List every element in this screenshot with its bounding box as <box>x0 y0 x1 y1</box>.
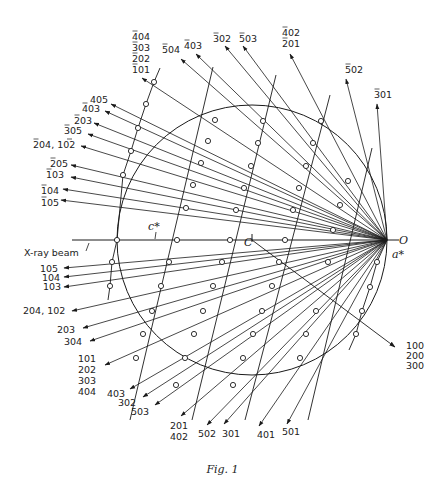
lattice-point <box>120 172 125 177</box>
lattice-row-line <box>308 148 372 420</box>
lattice-point <box>182 355 187 360</box>
lattice-point <box>303 331 308 336</box>
lattice-point <box>133 355 138 360</box>
reflected-rays <box>61 46 395 426</box>
lattice-point <box>259 308 264 313</box>
lattice-point <box>143 101 148 106</box>
reflection-label: 301 <box>374 89 392 100</box>
reciprocal-lattice-ewald-sphere-diagram: 4043032021015044033025034022015023014054… <box>0 0 445 486</box>
reflection-label: 201 <box>282 38 300 49</box>
lattice-point <box>191 331 196 336</box>
lattice-point <box>198 160 203 165</box>
lattice-point <box>174 237 179 242</box>
lattice-point <box>205 138 210 143</box>
lattice-point <box>241 185 246 190</box>
c-star-label: c* <box>148 220 160 233</box>
reflection-label: 300 <box>406 360 424 371</box>
reflection-label: 402 <box>170 431 188 442</box>
lattice-point <box>250 331 255 336</box>
c-star-leader <box>155 232 156 239</box>
reflection-label: 504 <box>162 44 180 55</box>
reflection-label: 303 <box>78 375 96 386</box>
lattice-row-line <box>130 67 213 420</box>
lattice-point <box>290 207 295 212</box>
lattice-point <box>313 308 318 313</box>
reflection-label: 103 <box>46 169 64 180</box>
ray-bottom <box>207 240 387 425</box>
lattice-point <box>255 140 260 145</box>
lattice-point <box>210 283 215 288</box>
reflection-label: 204, 102 <box>23 305 65 316</box>
reflection-label: 201 <box>170 420 188 431</box>
reflection-label: 305 <box>64 125 82 136</box>
lattice-point <box>359 308 364 313</box>
reflection-label: 101 <box>78 353 96 364</box>
lattice-point <box>173 382 178 387</box>
lattice-point <box>140 331 145 336</box>
lattice-point <box>135 125 140 130</box>
lattice-point <box>219 259 224 264</box>
ray-top <box>181 59 387 240</box>
lattice-point <box>296 185 301 190</box>
lattice-point <box>233 207 238 212</box>
ray-100-200-300 <box>252 240 395 347</box>
origin-label: O <box>399 234 408 247</box>
lattice-point <box>318 118 323 123</box>
reflection-label: 105 <box>41 197 59 208</box>
lattice-point <box>260 118 265 123</box>
reflection-label: 502 <box>198 428 216 439</box>
ray-left-upper <box>81 146 387 240</box>
reflection-label: 502 <box>345 64 363 75</box>
reflection-label: 302 <box>213 33 231 44</box>
lattice-point <box>330 227 335 232</box>
reflection-label: 203 <box>57 324 75 335</box>
lattice-point <box>325 259 330 264</box>
lattice-point <box>190 182 195 187</box>
reflection-label: 303 <box>132 42 150 53</box>
reflection-label: 403 <box>184 40 202 51</box>
lattice-row-line <box>192 75 276 420</box>
reflection-label: 202 <box>132 53 150 64</box>
reflection-label: 301 <box>222 428 240 439</box>
ray-bottom <box>155 240 387 405</box>
reflection-label: 501 <box>282 426 300 437</box>
lattice-point <box>248 163 253 168</box>
a-star-label: a* <box>392 248 405 261</box>
reflection-label: 205 <box>50 158 68 169</box>
lattice-point <box>128 148 133 153</box>
reflection-label: 101 <box>132 64 150 75</box>
lattice-point <box>230 382 235 387</box>
lattice-point <box>183 205 188 210</box>
reflection-label: 104 <box>41 185 59 196</box>
lattice-point <box>345 178 350 183</box>
lattice-point <box>200 308 205 313</box>
beam-label-leader <box>86 243 89 251</box>
reflection-label: 404 <box>132 31 150 42</box>
lattice-point <box>149 308 154 313</box>
reflection-label: 503 <box>239 33 257 44</box>
lattice-point <box>158 283 163 288</box>
figure-caption: Fig. 1 <box>0 463 445 476</box>
lattice-point <box>337 202 342 207</box>
reflection-label: 304 <box>64 336 82 347</box>
lattice-point <box>227 237 232 242</box>
reflection-label: 202 <box>78 364 96 375</box>
ray-bottom <box>287 240 387 424</box>
lattice-point <box>212 117 217 122</box>
lattice-point <box>297 355 302 360</box>
reflection-label: 103 <box>43 281 61 292</box>
reflection-label: 503 <box>131 406 149 417</box>
ray-left-lower <box>72 240 387 311</box>
lattice-point <box>282 237 287 242</box>
ray-left-upper <box>63 189 387 240</box>
lattice-point <box>114 237 119 242</box>
lattice-point <box>269 283 274 288</box>
lattice-point <box>109 259 114 264</box>
ray-left-lower <box>105 240 387 365</box>
reflection-label: 204, 102 <box>33 139 75 150</box>
lattice-point <box>303 163 308 168</box>
reflection-label: 401 <box>257 429 275 440</box>
reflection-label: 404 <box>78 386 96 397</box>
reflection-label: 402 <box>282 27 300 38</box>
lattice-point <box>353 331 358 336</box>
